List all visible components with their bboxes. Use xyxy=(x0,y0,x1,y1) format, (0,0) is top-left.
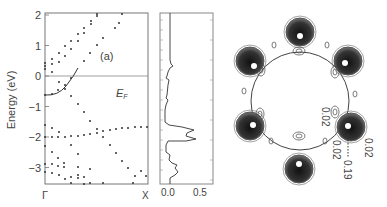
dos-curve xyxy=(165,13,196,184)
dos-tick: 0.5 xyxy=(193,187,207,198)
y-tick: 0 xyxy=(35,70,41,82)
band-structure-panel: 2 1 0 −1 −2 −3 Energy (eV) Γ X (a) EF xyxy=(5,9,149,201)
x-tick-x: X xyxy=(142,190,149,201)
y-tick: −3 xyxy=(28,162,41,174)
ring xyxy=(251,52,349,150)
dos-tick: 0.0 xyxy=(161,187,175,198)
contour-label: 0.19 xyxy=(342,160,353,180)
figure: 2 1 0 −1 −2 −3 Energy (eV) Γ X (a) EF xyxy=(0,0,387,207)
contour-label: 0.02 xyxy=(331,140,342,160)
band-dots xyxy=(44,13,148,185)
y-axis-label: Energy (eV) xyxy=(5,71,17,130)
highlighted-band-curve xyxy=(45,68,78,95)
contour-label: 0.02 xyxy=(320,107,331,127)
contour-panel: 0.02 0.02 0.02 0.19 xyxy=(234,16,374,185)
y-tick: −1 xyxy=(28,101,41,113)
contour-label: 0.02 xyxy=(363,138,374,158)
dos-panel: 0.0 0.5 xyxy=(160,13,213,198)
panel-label: (a) xyxy=(100,50,113,62)
fermi-label: EF xyxy=(116,87,128,100)
y-tick: 2 xyxy=(35,9,41,21)
y-tick: 1 xyxy=(35,40,41,52)
y-tick: −2 xyxy=(28,131,41,143)
x-tick-gamma: Γ xyxy=(42,189,48,201)
